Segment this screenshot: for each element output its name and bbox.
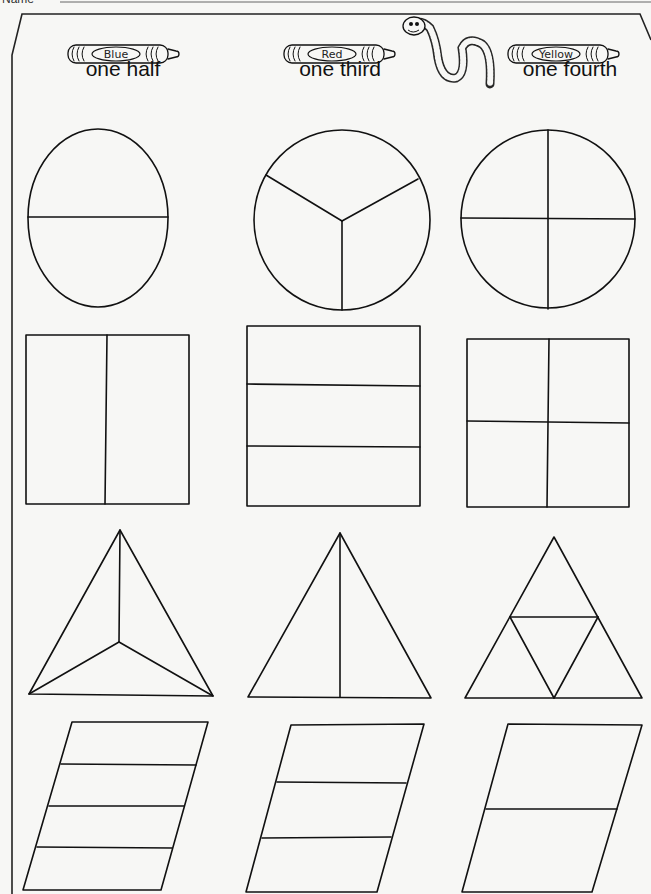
fraction-shapes <box>0 0 651 894</box>
triangle-fourths[interactable] <box>465 537 642 698</box>
triangle-halves[interactable] <box>248 533 431 698</box>
triangle-thirds[interactable] <box>29 530 213 696</box>
circle-halves[interactable] <box>28 129 168 307</box>
circle-thirds[interactable] <box>254 130 430 310</box>
rectangle-thirds[interactable] <box>247 326 420 506</box>
circle-fourths[interactable] <box>461 130 635 309</box>
parallelogram-thirds[interactable] <box>246 724 424 892</box>
parallelogram-halves[interactable] <box>462 724 642 892</box>
rectangle-halves[interactable] <box>26 335 189 504</box>
rectangle-fourths[interactable] <box>467 339 629 507</box>
parallelogram-fourths[interactable] <box>23 722 208 890</box>
